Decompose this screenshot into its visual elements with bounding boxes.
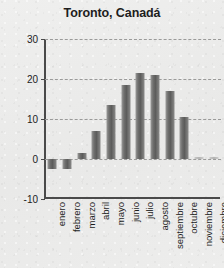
bar-slot	[133, 39, 148, 199]
bar-slot	[74, 39, 89, 199]
x-axis-tick-label: septiembre	[174, 202, 185, 249]
x-axis-tick-label: enero	[56, 202, 67, 226]
x-axis-tick-label: marzo	[86, 202, 97, 228]
page-title: Toronto, Canadá	[0, 6, 224, 20]
bar-slot	[206, 39, 221, 199]
bar	[48, 159, 57, 169]
bar	[209, 157, 218, 159]
bar-slot	[148, 39, 163, 199]
y-axis-tick-mark	[41, 199, 45, 200]
x-axis-tick-label: agosto	[159, 202, 170, 231]
y-axis-tick-label: 30	[27, 34, 38, 45]
bar-slot	[177, 39, 192, 199]
bar	[194, 157, 203, 159]
bar-slot	[45, 39, 60, 199]
bar-slot	[162, 39, 177, 199]
bar-series	[45, 39, 221, 199]
bar	[180, 117, 189, 159]
bar	[121, 85, 130, 159]
y-axis-tick-label: 20	[27, 74, 38, 85]
bar	[106, 105, 115, 159]
bar-slot	[118, 39, 133, 199]
y-axis-tick-label: -10	[24, 194, 38, 205]
x-axis-tick-label: noviembre	[203, 202, 214, 246]
x-axis-tick-label: junio	[130, 202, 141, 222]
plot-area: 3020100-10	[45, 39, 221, 199]
bar-slot	[104, 39, 119, 199]
bar	[62, 159, 71, 169]
y-axis-tick-label: 0	[32, 154, 38, 165]
bar	[165, 91, 174, 159]
x-axis-tick-label: julio	[144, 202, 155, 219]
bar	[136, 73, 145, 159]
bar-slot	[192, 39, 207, 199]
bar	[92, 131, 101, 159]
x-axis-tick-label: febrero	[71, 202, 82, 232]
bar	[77, 153, 86, 159]
x-axis-tick-label: diciembre	[218, 202, 224, 243]
bar	[150, 75, 159, 159]
y-axis-tick-label: 10	[27, 114, 38, 125]
bar-slot	[89, 39, 104, 199]
x-axis-tick-label: abril	[100, 202, 111, 220]
x-axis-tick-label: octubre	[188, 202, 199, 234]
x-axis-labels: enerofebreromarzoabrilmayojuniojulioagos…	[45, 202, 221, 266]
x-axis-tick-label: mayo	[115, 202, 126, 225]
bar-slot	[60, 39, 75, 199]
